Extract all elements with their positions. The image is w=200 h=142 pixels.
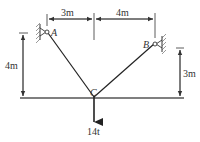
dim-top-left-label: 3m — [61, 7, 74, 18]
dim-left-height-label: 4m — [5, 60, 18, 71]
point-b-label: B — [143, 39, 149, 50]
point-c-label: C — [90, 87, 97, 98]
diagram-canvas: 3m 4m 4m 3m A B C 14t — [0, 0, 200, 142]
cable-ac — [48, 33, 94, 97]
left-height-dimension — [19, 33, 28, 96]
point-a-label: A — [50, 27, 58, 38]
dim-right-height-label: 3m — [183, 68, 196, 79]
load-label: 14t — [87, 126, 100, 137]
dim-top-right-label: 4m — [116, 7, 129, 18]
cable-bc — [94, 44, 154, 97]
